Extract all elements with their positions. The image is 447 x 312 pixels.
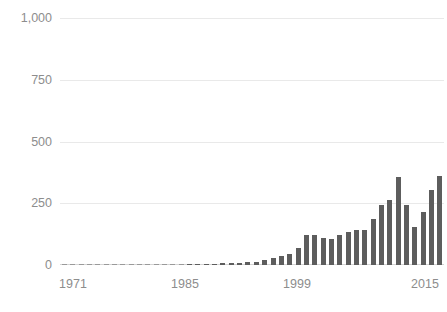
bar: [262, 260, 267, 265]
bar: [170, 264, 175, 265]
bar: [396, 177, 401, 265]
y-tick-label-500: 500: [4, 136, 52, 149]
bar: [287, 254, 292, 265]
y-tick-label-250: 250: [4, 197, 52, 210]
bar: [362, 230, 367, 265]
bar: [271, 258, 276, 265]
bar: [279, 256, 284, 265]
bar: [154, 264, 159, 265]
bar: [354, 230, 359, 265]
y-tick-label-750: 750: [4, 74, 52, 87]
bar: [404, 205, 409, 266]
bar: [429, 190, 434, 265]
bar: [421, 212, 426, 265]
bar: [437, 176, 442, 265]
bar: [95, 264, 100, 265]
bar: [70, 264, 75, 265]
bar: [237, 263, 242, 265]
bar: [346, 232, 351, 265]
bar: [329, 239, 334, 265]
x-tick-label-1971: 1971: [59, 278, 87, 291]
bar: [137, 264, 142, 265]
bar: [212, 264, 217, 265]
y-tick-label-0: 0: [4, 259, 52, 272]
bar: [312, 235, 317, 265]
x-tick-label-2015: 2015: [411, 278, 439, 291]
bar: [179, 264, 184, 265]
bar: [387, 200, 392, 265]
bar: [296, 248, 301, 265]
bar: [129, 264, 134, 265]
bar: [321, 238, 326, 265]
x-tick-label-1999: 1999: [283, 278, 311, 291]
bar: [195, 264, 200, 265]
bar: [187, 264, 192, 265]
bar: [120, 264, 125, 265]
bar: [304, 235, 309, 265]
bar: [337, 235, 342, 265]
x-tick-label-1985: 1985: [171, 278, 199, 291]
bar: [371, 219, 376, 265]
bars-layer: [60, 18, 444, 265]
bar: [87, 264, 92, 265]
bar: [220, 263, 225, 265]
bar: [79, 264, 84, 265]
bar: [62, 264, 67, 265]
bar: [112, 264, 117, 265]
bar: [379, 205, 384, 266]
bar: [204, 264, 209, 265]
bar: [104, 264, 109, 265]
bar: [229, 263, 234, 265]
bar: [162, 264, 167, 265]
bar-chart: 1,000 750 500 250 0 1971 1985 1999 2015: [0, 0, 447, 312]
bar: [254, 262, 259, 265]
plot-area: [60, 18, 444, 265]
bar: [245, 262, 250, 265]
bar: [412, 227, 417, 265]
bar: [145, 264, 150, 265]
y-tick-label-1000: 1,000: [4, 12, 52, 25]
